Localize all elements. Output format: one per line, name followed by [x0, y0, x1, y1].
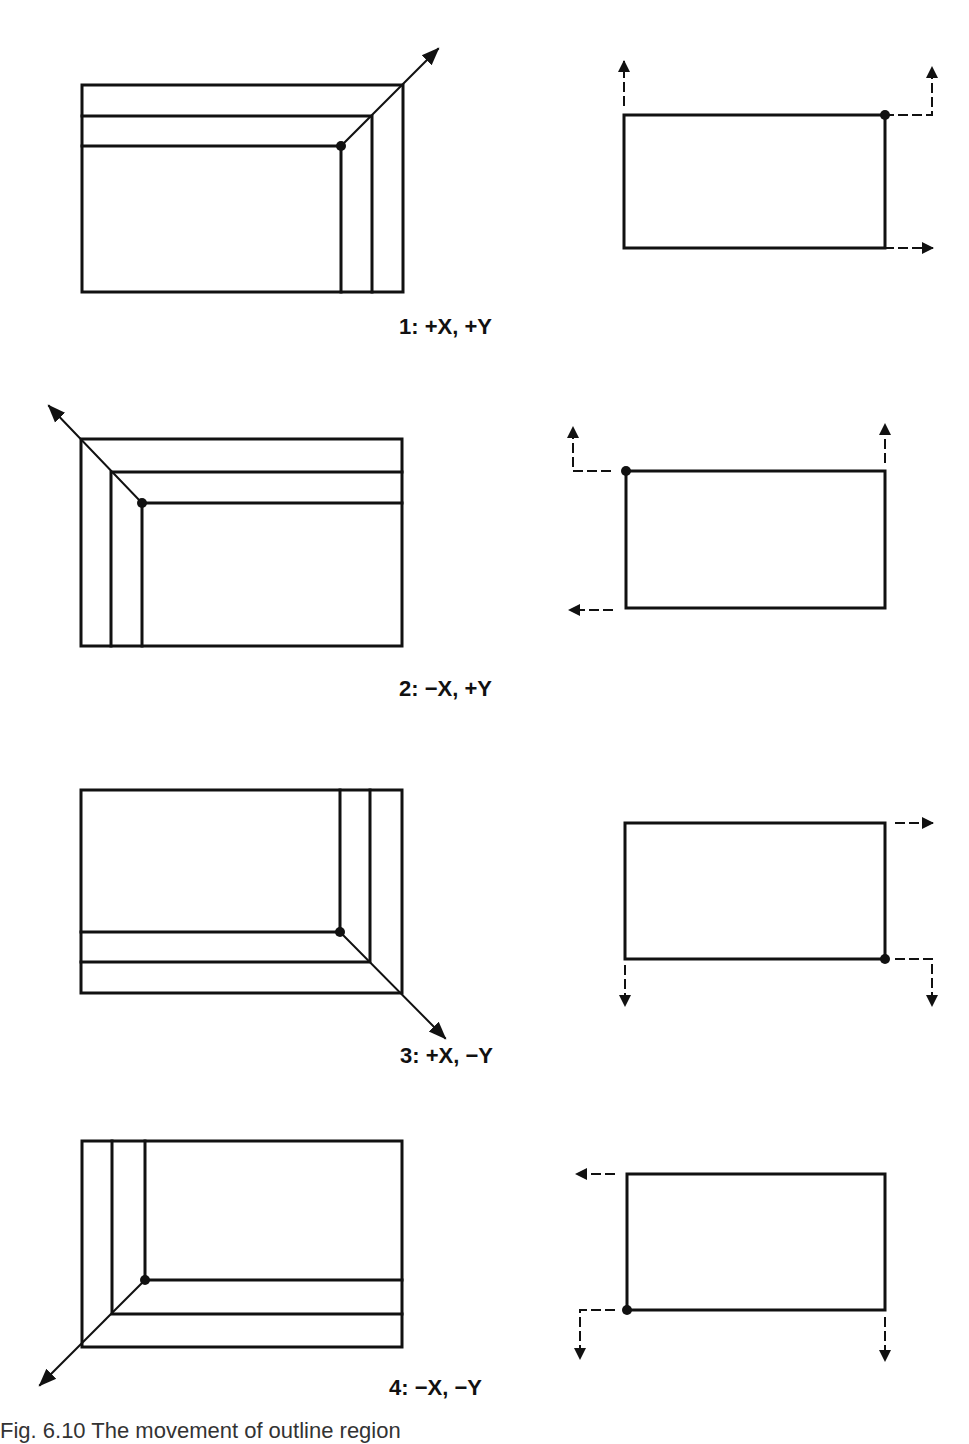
panel-1-nested-rectangles — [82, 49, 438, 292]
panel-4-caption: 4: −X, −Y — [389, 1375, 482, 1401]
panel-3-edge-arrows — [625, 823, 932, 1005]
panel-2-edge-arrows — [570, 425, 885, 610]
panel-4-edge-arrows — [577, 1174, 885, 1360]
panel-3-nested-rectangles — [81, 790, 445, 1038]
panel-2-caption: 2: −X, +Y — [399, 676, 492, 702]
panel-4-nested-rectangles — [40, 1141, 402, 1385]
panel-3-caption: 3: +X, −Y — [400, 1043, 493, 1069]
figure-caption-partial: Fig. 6.10 The movement of outline region — [0, 1418, 401, 1444]
anchor-point-icon — [336, 141, 346, 151]
panel-2-nested-rectangles — [49, 406, 402, 646]
panel-1-edge-arrows — [624, 62, 932, 248]
panel-1-caption: 1: +X, +Y — [399, 314, 492, 340]
